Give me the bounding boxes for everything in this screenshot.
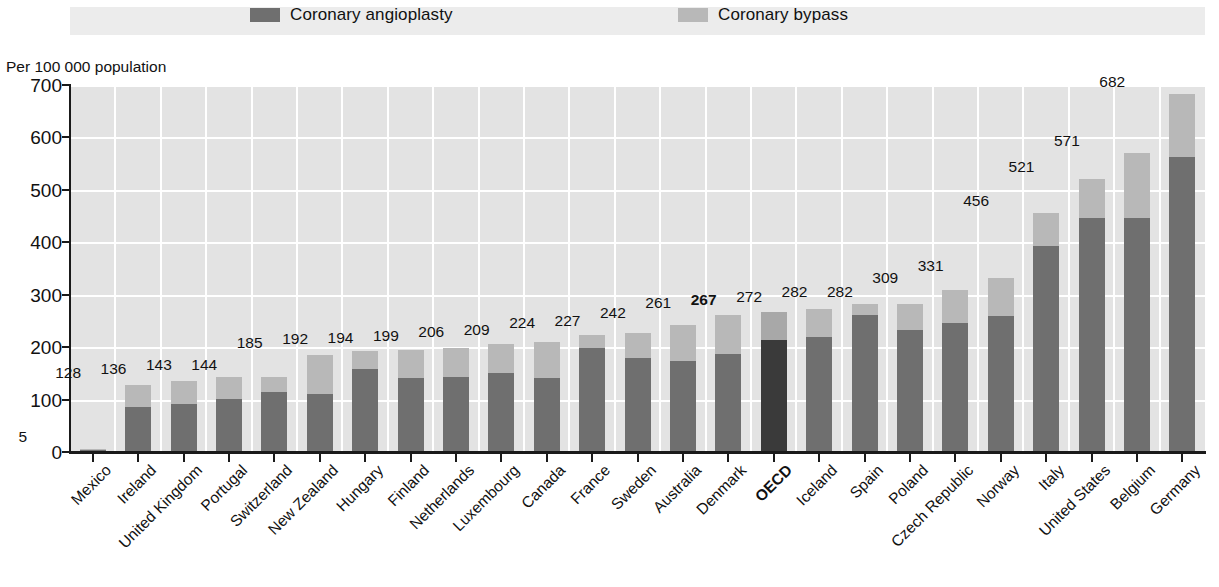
bar-value-label: 5	[18, 429, 27, 445]
bar-united-states[interactable]	[1079, 179, 1105, 452]
bar-segment-angioplasty	[443, 377, 469, 452]
bar-new-zealand[interactable]	[307, 355, 333, 452]
bar-oecd[interactable]	[761, 312, 787, 452]
bar-value-label: 206	[418, 324, 444, 340]
bar-australia[interactable]	[670, 325, 696, 452]
x-axis-tick-mark	[1045, 454, 1047, 462]
vertical-gridline	[841, 85, 843, 452]
bar-value-label: 521	[1009, 159, 1035, 175]
bar-segment-bypass	[398, 350, 424, 378]
bar-segment-bypass	[216, 377, 242, 398]
bar-belgium[interactable]	[1124, 153, 1150, 452]
bar-segment-bypass	[171, 381, 197, 404]
x-axis-tick-mark	[1000, 454, 1002, 462]
category-label-iceland: Iceland	[794, 462, 841, 509]
x-axis-tick-mark	[546, 454, 548, 462]
x-axis-tick-mark	[228, 454, 230, 462]
bar-netherlands[interactable]	[443, 348, 469, 452]
vertical-gridline	[387, 85, 389, 452]
vertical-gridline	[614, 85, 616, 452]
bar-segment-bypass	[579, 335, 605, 349]
vertical-gridline	[478, 85, 480, 452]
bar-value-label: 194	[328, 330, 354, 346]
bar-segment-angioplasty	[670, 361, 696, 452]
bar-germany[interactable]	[1169, 94, 1195, 452]
bar-segment-angioplasty	[171, 404, 197, 452]
x-axis-tick-mark	[137, 454, 139, 462]
y-axis-tick-label: 700	[6, 76, 62, 95]
vertical-gridline	[341, 85, 343, 452]
legend-background-band	[70, 7, 1205, 35]
bar-segment-bypass	[534, 342, 560, 378]
bar-segment-bypass	[897, 304, 923, 330]
bar-canada[interactable]	[534, 342, 560, 452]
bar-united-kingdom[interactable]	[171, 381, 197, 452]
category-label-spain: Spain	[846, 462, 885, 501]
bar-luxembourg[interactable]	[488, 344, 514, 452]
vertical-gridline	[1159, 85, 1161, 452]
category-label-canada: Canada	[518, 462, 568, 512]
vertical-gridline	[795, 85, 797, 452]
vertical-gridline	[296, 85, 298, 452]
bar-sweden[interactable]	[625, 333, 651, 452]
bar-spain[interactable]	[852, 304, 878, 452]
bar-value-label: 682	[1099, 74, 1125, 90]
bar-hungary[interactable]	[352, 351, 378, 452]
x-axis-tick-mark	[92, 454, 94, 462]
x-axis-tick-mark	[637, 454, 639, 462]
bar-segment-angioplasty	[897, 330, 923, 452]
bar-ireland[interactable]	[125, 385, 151, 452]
bar-segment-bypass	[988, 278, 1014, 316]
bar-value-label: 224	[509, 315, 535, 331]
bar-segment-angioplasty	[398, 378, 424, 452]
y-axis-tick-label: 600	[6, 128, 62, 147]
bar-poland[interactable]	[897, 304, 923, 452]
category-label-oecd: OECD	[752, 462, 795, 505]
x-axis-tick-mark	[1091, 454, 1093, 462]
bar-segment-angioplasty	[307, 394, 333, 452]
legend-item-coronary-angioplasty[interactable]: Coronary angioplasty	[250, 7, 453, 23]
bar-switzerland[interactable]	[261, 377, 287, 452]
y-axis-tick-mark	[62, 399, 71, 401]
y-axis-tick-label: 100	[6, 391, 62, 410]
bar-value-label: 282	[827, 284, 853, 300]
bar-italy[interactable]	[1033, 213, 1059, 452]
vertical-gridline	[1113, 85, 1115, 452]
x-axis-tick-mark	[1181, 454, 1183, 462]
bar-denmark[interactable]	[715, 315, 741, 452]
bar-segment-bypass	[942, 290, 968, 323]
y-axis-tick-label: 300	[6, 286, 62, 305]
bar-portugal[interactable]	[216, 377, 242, 452]
x-axis-tick-mark	[773, 454, 775, 462]
bar-iceland[interactable]	[806, 309, 832, 452]
x-axis-tick-mark	[500, 454, 502, 462]
bar-norway[interactable]	[988, 278, 1014, 452]
bar-segment-bypass	[625, 333, 651, 358]
bar-value-label: 571	[1054, 133, 1080, 149]
bar-france[interactable]	[579, 335, 605, 452]
vertical-gridline	[523, 85, 525, 452]
bar-value-label: 185	[237, 335, 263, 351]
bar-segment-angioplasty	[715, 354, 741, 452]
bar-segment-bypass	[761, 312, 787, 340]
bar-segment-angioplasty	[488, 373, 514, 452]
bar-segment-angioplasty	[852, 315, 878, 452]
y-axis-tick-mark	[62, 294, 71, 296]
bar-segment-angioplasty	[216, 399, 242, 452]
y-axis-tick-mark	[62, 241, 71, 243]
x-axis-tick-mark	[864, 454, 866, 462]
y-axis-tick-mark	[62, 346, 71, 348]
y-axis-tick-mark	[62, 451, 71, 453]
bar-value-label: 128	[55, 365, 81, 381]
bar-finland[interactable]	[398, 350, 424, 452]
bar-segment-bypass	[261, 377, 287, 392]
bar-segment-angioplasty	[806, 337, 832, 452]
x-axis-tick-mark	[364, 454, 366, 462]
legend-item-coronary-bypass[interactable]: Coronary bypass	[678, 7, 848, 23]
category-label-norway: Norway	[974, 462, 1022, 510]
y-axis-tick-label: 0	[6, 443, 62, 462]
category-label-united-kingdom: United Kingdom	[116, 462, 205, 551]
bar-value-label: 143	[146, 357, 172, 373]
bar-segment-bypass	[1169, 94, 1195, 157]
bar-czech-republic[interactable]	[942, 290, 968, 452]
